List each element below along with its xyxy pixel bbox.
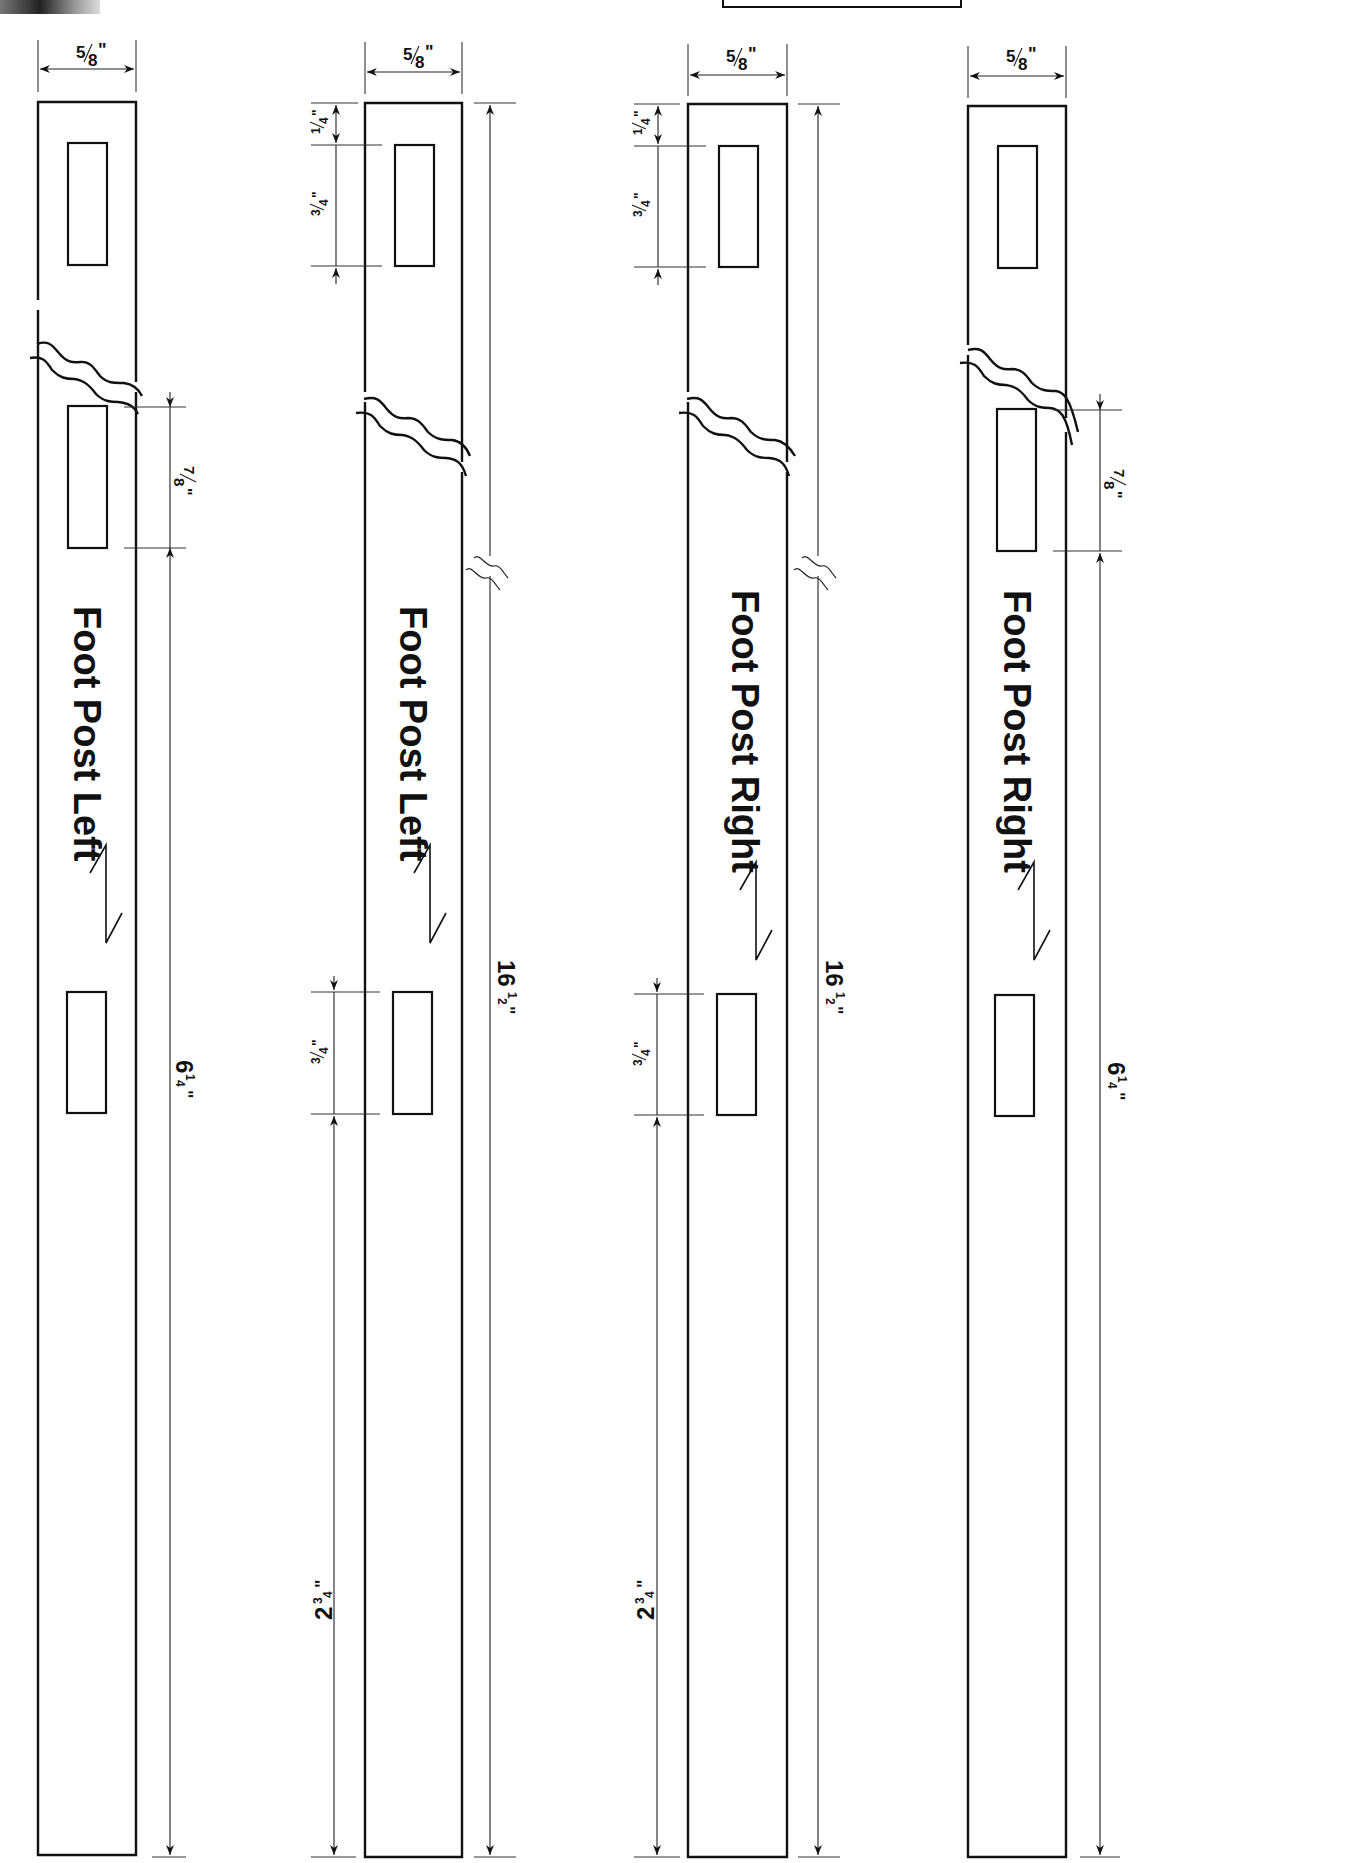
svg-text:8: 8 (1101, 481, 1118, 489)
dim-label-top-mortise: 3 4 " (309, 191, 331, 216)
dimension-break-mark (474, 557, 508, 578)
post-1: 5 8 " 7 8 " 6 1 4 " (30, 40, 198, 1857)
svg-text:2: 2 (632, 1607, 659, 1620)
dim-label-bottom-run: 2 3 4 " (310, 1579, 337, 1620)
post-2: 5 8 " 1 4 " 3 4 " (309, 42, 520, 1857)
post-label: Foot Post Right (996, 590, 1038, 873)
mortise-middle (997, 409, 1036, 551)
inch-mark: " (98, 40, 107, 60)
svg-text:": " (309, 109, 325, 116)
svg-text:7: 7 (1111, 469, 1128, 477)
width-dimension: 5 8 " (38, 40, 136, 92)
grain-direction-arrow (1018, 862, 1050, 960)
svg-text:": " (176, 1090, 196, 1099)
svg-text:": " (631, 1041, 647, 1048)
svg-text:": " (425, 42, 434, 62)
svg-text:16: 16 (821, 960, 848, 987)
width-dimension: 5 8 " (968, 44, 1066, 98)
mortise-middle (68, 406, 107, 548)
mortise-bottom (67, 992, 106, 1113)
svg-text:4: 4 (639, 200, 653, 207)
dim-label-mortise-gap: 7 8 " (1101, 469, 1128, 499)
svg-text:4: 4 (639, 1049, 653, 1056)
svg-text:8: 8 (738, 55, 747, 74)
foot-post-diagram: 5 8 " 7 8 " 6 1 4 " (0, 0, 1371, 1863)
dim-label-lower-mortise: 3 4 " (309, 1039, 331, 1064)
svg-text:": " (1107, 491, 1124, 499)
svg-text:4: 4 (317, 199, 331, 206)
svg-text:3: 3 (309, 1057, 323, 1064)
svg-text:3: 3 (309, 209, 323, 216)
dim-label-bottom-run: 6 1 4 " (171, 1060, 198, 1099)
svg-text:": " (1028, 44, 1037, 64)
dim-denominator: 8 (88, 51, 97, 70)
svg-text:1: 1 (631, 128, 645, 135)
dim-label-top-mortise: 3 4 " (631, 192, 653, 217)
dim-label-top-offset: 1 4 " (631, 110, 653, 135)
svg-text:3: 3 (631, 210, 645, 217)
svg-text:": " (631, 192, 647, 199)
svg-text:": " (826, 1006, 846, 1015)
svg-text:8: 8 (415, 53, 424, 72)
post-label: Foot Post Left (392, 606, 434, 862)
dimension-break-mark (802, 557, 836, 578)
dim-label-overall: 16 1 2 " (493, 960, 520, 1015)
dim-label-bottom-run: 6 1 4 " (1103, 1062, 1130, 1101)
svg-text:4: 4 (639, 118, 653, 125)
mortise-top (395, 145, 434, 266)
svg-text:": " (312, 1579, 332, 1588)
svg-text:7: 7 (181, 466, 198, 474)
svg-text:2: 2 (495, 998, 509, 1005)
post-4: 5 8 " 7 8 " 6 1 4 " Foot Post Right (960, 44, 1130, 1857)
mortise-bottom (393, 992, 432, 1114)
post-label: Foot Post Left (66, 606, 108, 862)
svg-text:": " (631, 110, 647, 117)
svg-text:4: 4 (317, 117, 331, 124)
dim-label-mortise-gap: 7 8 " (171, 466, 198, 496)
mortise-top (68, 143, 107, 265)
post-label: Foot Post Right (724, 590, 766, 873)
svg-text:": " (498, 1006, 518, 1015)
mortise-bottom (717, 994, 756, 1115)
svg-text:8: 8 (171, 478, 188, 486)
svg-text:2: 2 (310, 1607, 337, 1620)
dim-label-lower-mortise: 3 4 " (631, 1041, 653, 1066)
svg-text:5: 5 (403, 45, 412, 64)
width-dimension: 5 8 " (688, 44, 787, 96)
break-line (968, 349, 1078, 432)
svg-text:1: 1 (309, 127, 323, 134)
svg-text:4: 4 (1105, 1082, 1119, 1089)
svg-text:": " (177, 488, 194, 496)
svg-text:4: 4 (643, 1591, 657, 1598)
mortise-top (998, 146, 1037, 268)
svg-text:": " (748, 44, 757, 64)
svg-text:16: 16 (493, 960, 520, 987)
dim-label-bottom-run: 2 3 4 " (632, 1579, 659, 1620)
svg-text:8: 8 (1018, 55, 1027, 74)
dim-label-top-offset: 1 4 " (309, 109, 331, 134)
svg-text:2: 2 (823, 998, 837, 1005)
svg-text:": " (634, 1579, 654, 1588)
svg-text:": " (309, 1039, 325, 1046)
dim-label-overall: 16 1 2 " (821, 960, 848, 1015)
svg-text:6: 6 (1103, 1062, 1130, 1075)
post-3: 5 8 " 1 4 " 3 4 " (631, 44, 848, 1857)
mortise-top (719, 146, 758, 267)
svg-text:4: 4 (321, 1591, 335, 1598)
mortise-bottom (995, 995, 1034, 1116)
width-dimension: 5 8 " (365, 42, 462, 94)
svg-text:5: 5 (1006, 47, 1015, 66)
svg-text:5: 5 (726, 47, 735, 66)
svg-text:": " (1108, 1092, 1128, 1101)
dim-numerator: 5 (76, 43, 85, 62)
grain-direction-arrow (740, 862, 772, 960)
svg-text:4: 4 (173, 1080, 187, 1087)
svg-text:": " (309, 191, 325, 198)
svg-text:6: 6 (171, 1060, 198, 1073)
svg-text:3: 3 (631, 1059, 645, 1066)
svg-text:4: 4 (317, 1047, 331, 1054)
